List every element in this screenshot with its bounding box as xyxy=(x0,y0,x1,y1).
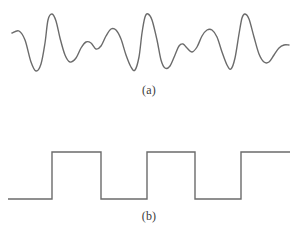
figure-root: (a) (b) xyxy=(0,0,298,238)
analog-waveform-line xyxy=(12,14,289,71)
panel-a-caption: (a) xyxy=(0,83,298,98)
panel-b-caption: (b) xyxy=(0,209,298,224)
square-wave-line xyxy=(8,152,290,199)
analog-waveform-plot xyxy=(0,0,298,119)
panel-analog-signal xyxy=(0,0,298,119)
